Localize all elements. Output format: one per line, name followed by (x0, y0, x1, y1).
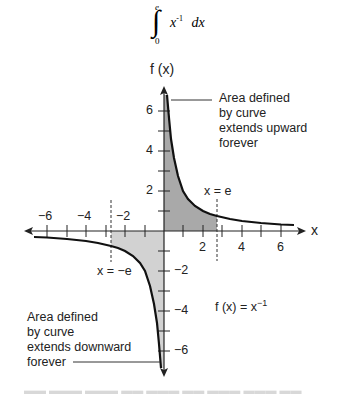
y-tick-label: 2 (146, 183, 153, 197)
upper-note-line: by curve (219, 106, 307, 121)
y-tick-label: 4 (146, 143, 153, 157)
function-label-base: f (x) = x (215, 300, 257, 314)
upper-note-line: extends upward (219, 121, 307, 136)
function-label-exponent: −1 (257, 298, 267, 308)
x-tick-label: 4 (238, 240, 245, 254)
x-axis-label: x (311, 223, 318, 238)
lower-note-line: forever (27, 355, 131, 370)
function-label: f (x) = x−1 (215, 296, 267, 315)
upper-note-line: Area defined (219, 91, 307, 106)
upper-annotation: Area defined by curve extends upward for… (219, 91, 307, 151)
x-tick-label: −6 (38, 209, 52, 223)
cutoff-caption: ▬▬ ▬▬▬ ▬▬▬ ▬▬ ▬▬▬ ▬▬ ▬▬▬ ▬▬▬ ▬▬ (24, 384, 301, 396)
x-tick-label: −4 (77, 209, 91, 223)
y-tick-label: −4 (174, 303, 188, 317)
y-tick-label: −6 (174, 343, 188, 357)
x-tick-label: 2 (199, 240, 206, 254)
y-axis-label: f (x) (150, 62, 174, 77)
y-tick-label: −2 (174, 263, 188, 277)
upper-note-line: forever (219, 136, 307, 151)
x-tick-label: −2 (116, 209, 130, 223)
shaded-area-positive (164, 95, 217, 231)
x-equals-neg-e-label: x = −e (97, 264, 132, 279)
lower-note-line: extends downward (27, 340, 131, 355)
x-equals-e-label: x = e (204, 184, 231, 199)
y-tick-label: 6 (146, 103, 153, 117)
x-tick-label: 6 (277, 240, 284, 254)
lower-annotation: Area defined by curve extends downward f… (27, 310, 131, 370)
lower-note-line: by curve (27, 325, 131, 340)
lower-note-line: Area defined (27, 310, 131, 325)
